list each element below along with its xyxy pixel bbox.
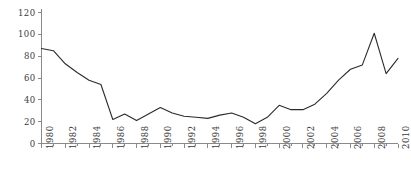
y-tick-label: 60	[10, 74, 36, 83]
x-tick-label: 1998	[259, 125, 268, 149]
y-tick-label: 80	[10, 52, 36, 61]
x-tick-label: 2004	[331, 125, 340, 149]
x-tick-label: 1996	[236, 125, 245, 149]
y-tick-label: 0	[10, 139, 36, 148]
axis-lines	[42, 9, 399, 144]
x-tick-label: 1986	[117, 125, 126, 149]
y-tick-label: 20	[10, 117, 36, 126]
data-series-layer	[42, 33, 399, 124]
series-line	[42, 33, 399, 124]
y-tick-label: 120	[10, 8, 36, 17]
x-tick-label: 1994	[212, 125, 221, 149]
y-tick-label: 40	[10, 96, 36, 105]
chart-plot-area	[0, 0, 411, 195]
x-tick-label: 2008	[378, 125, 387, 149]
x-tick-label: 1980	[46, 125, 55, 149]
x-tick-label: 2006	[354, 125, 363, 149]
x-tick-label: 1984	[93, 125, 102, 149]
line-chart: 020406080100120 198019821984198619881990…	[0, 0, 411, 195]
x-tick-label: 1990	[164, 125, 173, 149]
y-tick-label: 100	[10, 30, 36, 39]
x-tick-label: 2010	[402, 125, 411, 149]
x-tick-label: 1988	[141, 125, 150, 149]
x-tick-label: 1992	[188, 125, 197, 149]
x-tick-label: 1982	[69, 125, 78, 149]
x-tick-label: 2000	[283, 125, 292, 149]
x-tick-label: 2002	[307, 125, 316, 149]
